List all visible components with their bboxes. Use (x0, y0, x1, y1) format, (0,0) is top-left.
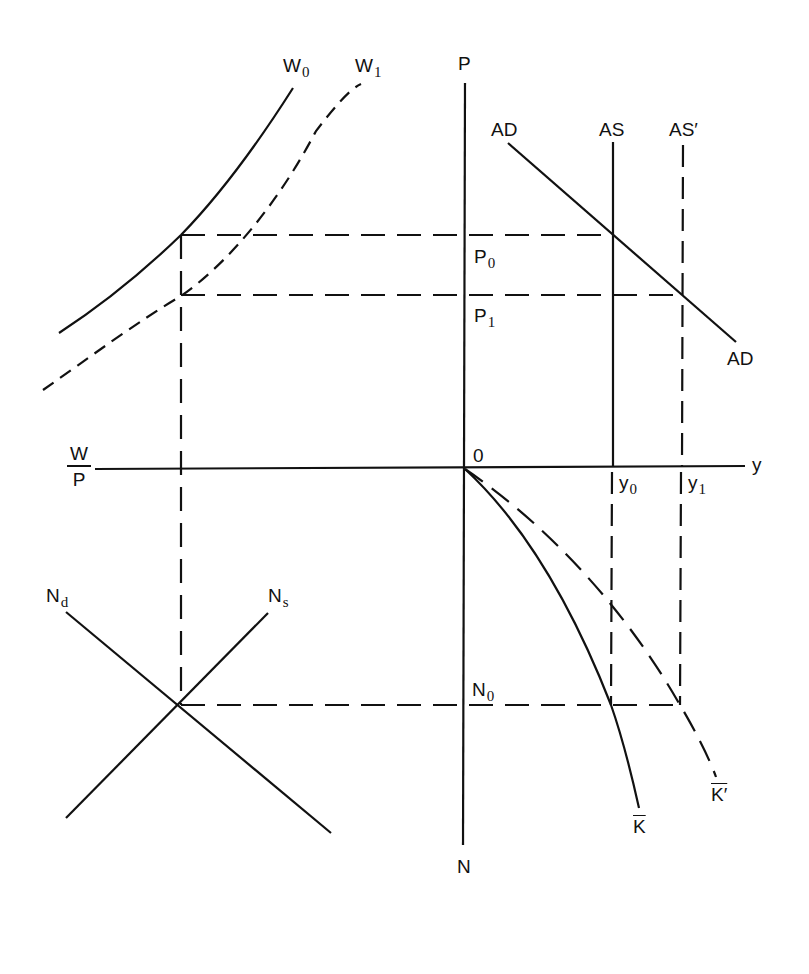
ad-line (508, 143, 736, 342)
label-p0: P0 (474, 247, 495, 266)
labor-supply-line (66, 613, 268, 818)
label-k-bar: K (633, 817, 646, 836)
y0-guide (611, 472, 612, 705)
label-labor-axis: N (457, 857, 471, 876)
label-k-bar-prime: K′ (711, 785, 727, 804)
label-real-wage-axis: W P (67, 444, 91, 489)
k-bar-prime-curve (465, 469, 716, 777)
label-as-prime: AS′ (669, 120, 698, 139)
price-labor-axis (463, 83, 465, 845)
as-prime-line (682, 145, 683, 466)
label-output-axis: y (752, 455, 762, 474)
label-origin: 0 (473, 446, 484, 465)
label-w1: W1 (355, 56, 381, 75)
y1-guide (680, 472, 681, 705)
label-p1: P1 (474, 306, 495, 325)
k-bar-curve (465, 469, 639, 808)
w0-curve (59, 88, 293, 333)
label-y0: y0 (619, 473, 637, 492)
labor-demand-line (66, 612, 331, 833)
label-y1: y1 (688, 473, 706, 492)
w1-curve (43, 84, 361, 390)
label-ad-bottom: AD (727, 349, 753, 368)
label-n0: N0 (472, 680, 494, 699)
real-wage-output-axis (95, 466, 745, 469)
label-ad-top: AD (491, 120, 517, 139)
label-ns: Ns (268, 586, 289, 605)
label-as: AS (599, 120, 624, 139)
label-nd: Nd (46, 586, 68, 605)
label-price-axis: P (458, 54, 471, 73)
label-w0: W0 (283, 56, 309, 75)
